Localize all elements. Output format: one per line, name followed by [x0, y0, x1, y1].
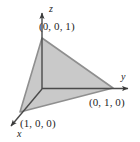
- x-axis-label: x: [17, 129, 21, 139]
- vertex-label-z-point: (0, 0, 1): [39, 21, 75, 32]
- vertex-label-x-point: (1, 0, 0): [20, 118, 56, 129]
- vertex-label-y-point: (0, 1, 0): [89, 97, 125, 108]
- y-axis-label: y: [121, 72, 125, 82]
- coordinate-figure: z y x (0, 0, 1) (1, 0, 0) (0, 1, 0): [0, 0, 140, 142]
- z-axis-label: z: [49, 4, 53, 14]
